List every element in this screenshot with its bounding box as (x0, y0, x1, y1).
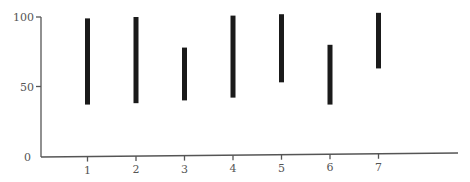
x-tick-label: 2 (133, 163, 140, 176)
range-bar (85, 18, 90, 104)
x-tick-label: 3 (181, 163, 188, 176)
range-bar (328, 45, 333, 105)
range-bar (376, 13, 381, 69)
x-axis (41, 153, 458, 157)
y-tick-label: 100 (13, 11, 34, 24)
x-tick-label: 6 (327, 161, 334, 174)
range-bar (182, 48, 187, 101)
range-bar (231, 16, 236, 98)
bars (85, 13, 381, 105)
y-tick-label: 50 (20, 81, 34, 94)
range-bar (134, 17, 139, 103)
range-bar (279, 14, 284, 82)
y-tick-label: 0 (24, 151, 31, 164)
x-tick-label: 4 (230, 162, 237, 175)
range-bar-chart: 050100 1234567 (0, 0, 470, 182)
x-tick-label: 7 (375, 161, 382, 174)
x-tick-label: 5 (278, 162, 285, 175)
x-ticks: 1234567 (84, 154, 382, 177)
y-ticks: 050100 (13, 11, 41, 164)
x-tick-label: 1 (84, 164, 91, 177)
